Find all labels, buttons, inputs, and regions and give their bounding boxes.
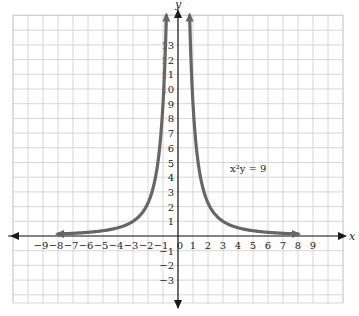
y-tick-label: 12	[161, 55, 174, 66]
x-tick-label: −4	[109, 240, 124, 251]
x-tick-label: 3	[220, 240, 226, 251]
y-tick-label: 9	[168, 99, 174, 110]
y-tick-label: −2	[159, 260, 174, 271]
x-tick-label: −5	[94, 240, 109, 251]
x-tick-label: −7	[64, 240, 79, 251]
graph-plot: x y −9−8−7−6−5−4−3−2−10123456789 −3−2−11…	[0, 0, 359, 316]
x-axis-label: x	[349, 230, 356, 243]
x-tick-label: 5	[250, 240, 256, 251]
y-tick-label: 8	[168, 113, 174, 124]
y-tick-label: 3	[168, 187, 174, 198]
curve-arrow-end-icon	[292, 230, 301, 238]
y-axis-down-arrow-icon	[174, 300, 182, 309]
y-tick-labels: −3−2−112345678910111213	[159, 40, 174, 286]
y-tick-label: 7	[168, 128, 174, 139]
y-axis-label: y	[174, 0, 182, 11]
x-tick-label: −6	[79, 240, 94, 251]
x-tick-label: −9	[34, 240, 49, 251]
curve-arrow-up-icon	[186, 13, 194, 22]
curve-left-branch	[58, 16, 166, 234]
x-tick-label: 9	[310, 240, 316, 251]
x-tick-label: 0	[177, 240, 183, 251]
x-tick-label: 8	[295, 240, 301, 251]
x-tick-label: 1	[190, 240, 196, 251]
y-tick-label: 5	[168, 158, 174, 169]
x-tick-label: 7	[280, 240, 286, 251]
x-tick-label: −2	[139, 240, 154, 251]
curve-right-branch	[190, 16, 298, 234]
y-tick-label: −3	[159, 275, 174, 286]
x-axis-right-arrow-icon	[338, 232, 347, 240]
x-tick-label: −8	[49, 240, 64, 251]
y-tick-label: 2	[168, 202, 174, 213]
x-tick-label: −3	[124, 240, 139, 251]
x-tick-label: 4	[235, 240, 241, 251]
y-tick-label: −1	[159, 246, 174, 257]
y-tick-label: 13	[161, 40, 174, 51]
x-tick-label: 2	[205, 240, 211, 251]
y-tick-label: 6	[168, 143, 174, 154]
x-tick-labels: −9−8−7−6−5−4−3−2−10123456789	[34, 240, 317, 251]
y-tick-label: 1	[168, 216, 174, 227]
y-tick-label: 4	[168, 172, 174, 183]
x-axis-left-arrow-icon	[10, 232, 19, 240]
x-tick-label: 6	[265, 240, 271, 251]
equation-label: x²y = 9	[230, 163, 266, 174]
axes: x y	[8, 0, 356, 309]
curve-arrow-up-icon	[162, 13, 170, 22]
curve-arrow-end-icon	[55, 230, 64, 238]
